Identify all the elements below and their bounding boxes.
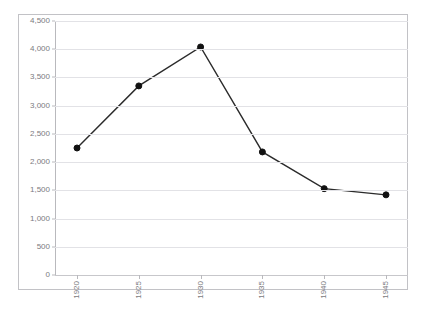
x-axis-tick-label: 1940 (320, 281, 328, 299)
x-axis-tick-mark (139, 275, 140, 279)
y-axis-tick-mark (52, 77, 55, 78)
gridline (55, 106, 408, 107)
x-axis-tick-label: 1925 (135, 281, 143, 299)
data-point (259, 149, 265, 155)
line-chart: 05001,0001,5002,0002,5003,0003,5004,0004… (0, 0, 435, 312)
data-point (74, 145, 80, 151)
y-axis-tick-mark (52, 162, 55, 163)
x-axis-tick-label: 1945 (382, 281, 390, 299)
y-axis-tick-mark (52, 190, 55, 191)
y-axis-tick-label: 4,000 (30, 45, 50, 53)
gridline (55, 49, 408, 50)
gridline (55, 21, 408, 22)
x-axis-tick-mark (201, 275, 202, 279)
y-axis-tick-mark (52, 133, 55, 134)
y-axis-tick-mark (52, 21, 55, 22)
y-axis-tick-label: 3,000 (30, 102, 50, 110)
gridline (55, 219, 408, 220)
y-axis-tick-label: 3,500 (30, 73, 50, 81)
data-point (383, 192, 389, 198)
y-axis-tick-label: 2,000 (30, 158, 50, 166)
series-graphic (55, 21, 408, 275)
y-axis-tick-mark (52, 218, 55, 219)
gridline (55, 247, 408, 248)
gridline (55, 190, 408, 191)
series-line (77, 47, 386, 195)
x-axis-tick-mark (77, 275, 78, 279)
y-axis-tick-label: 2,500 (30, 130, 50, 138)
x-axis-tick-label: 1930 (197, 281, 205, 299)
gridline (55, 134, 408, 135)
y-axis-tick-label: 0 (46, 271, 50, 279)
plot-area: 05001,0001,5002,0002,5003,0003,5004,0004… (55, 21, 408, 275)
y-axis-tick-mark (52, 49, 55, 50)
x-axis-tick-label: 1920 (73, 281, 81, 299)
y-axis-tick-label: 1,000 (30, 215, 50, 223)
y-axis-tick-label: 4,500 (30, 17, 50, 25)
gridline (55, 275, 408, 276)
series-markers (74, 44, 389, 198)
x-axis-tick-mark (386, 275, 387, 279)
y-axis-tick-mark (52, 246, 55, 247)
chart-title (0, 0, 435, 3)
y-axis-tick-label: 500 (37, 243, 50, 251)
gridline (55, 77, 408, 78)
y-axis-tick-mark (52, 105, 55, 106)
data-point (136, 83, 142, 89)
x-axis-tick-label: 1935 (258, 281, 266, 299)
x-axis-tick-mark (324, 275, 325, 279)
gridline (55, 162, 408, 163)
y-axis-tick-mark (52, 275, 55, 276)
y-axis-tick-label: 1,500 (30, 186, 50, 194)
x-axis-tick-mark (262, 275, 263, 279)
